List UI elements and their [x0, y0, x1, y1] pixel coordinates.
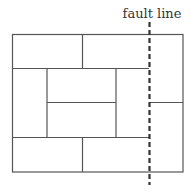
fault-line-label: fault line: [123, 6, 182, 21]
outer-frame: [13, 35, 184, 173]
fault-line-diagram: fault line: [0, 0, 191, 192]
